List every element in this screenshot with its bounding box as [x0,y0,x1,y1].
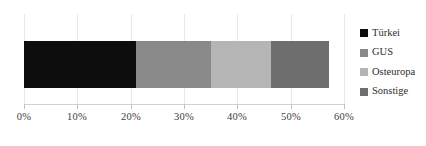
x-axis-label-50: 50% [271,111,311,122]
x-axis-label-20: 20% [111,111,151,122]
legend-item-label: Türkei [372,28,400,39]
x-axis-label-0: 0% [4,111,44,122]
bar-segment-sonstige[interactable] [271,41,329,88]
legend-item-sonstige[interactable]: Sonstige [360,83,424,101]
legend-swatch-square-icon [360,88,368,96]
legend-swatch-square-icon [360,49,368,57]
legend-item-osteuropa[interactable]: Osteuropa [360,63,424,81]
legend-item-label: GUS [372,47,393,58]
x-axis-label-40: 40% [217,111,257,122]
x-axis-label-60: 60% [324,111,364,122]
x-axis-tick [131,104,132,109]
x-axis-tick [344,104,345,109]
bar-segment-tuerkei[interactable] [24,41,136,88]
x-axis-label-10: 10% [57,111,97,122]
legend-swatch-square-icon [360,68,368,76]
x-axis-tick [184,104,185,109]
bar-segment-osteuropa[interactable] [211,41,271,88]
bar-segment-gus[interactable] [136,41,211,88]
gridline [344,14,345,104]
x-axis-tick [77,104,78,109]
x-axis-tick [291,104,292,109]
x-axis-ticks [24,104,344,109]
legend-item-label: Sonstige [372,86,408,97]
stacked-bar [24,41,329,88]
legend-item-tuerkei[interactable]: Türkei [360,24,424,42]
legend-item-label: Osteuropa [372,67,415,78]
stacked-bar-chart: 0% 10% 20% 30% 40% 50% 60% Türkei GUS Os… [0,0,426,146]
x-axis-tick [24,104,25,109]
x-axis-label-30: 30% [164,111,204,122]
chart-legend: Türkei GUS Osteuropa Sonstige [360,24,424,102]
legend-item-gus[interactable]: GUS [360,44,424,62]
x-axis-tick [237,104,238,109]
legend-swatch-square-icon [360,29,368,37]
